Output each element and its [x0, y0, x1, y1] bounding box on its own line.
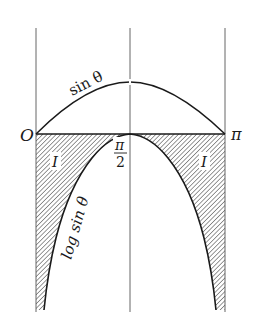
diagram-canvas: O π π 2 I I sin θ log sin θ [0, 0, 255, 328]
half-pi-numerator: π [114, 137, 125, 153]
region-left-label: I [51, 153, 59, 171]
origin-label: O [20, 125, 34, 145]
pi-label: π [230, 125, 242, 144]
half-pi-denominator: 2 [116, 154, 125, 170]
region-right-label: I [200, 153, 208, 171]
hatched-region [36, 134, 225, 310]
peak-gap [129, 79, 131, 85]
sin-curve [36, 82, 225, 134]
